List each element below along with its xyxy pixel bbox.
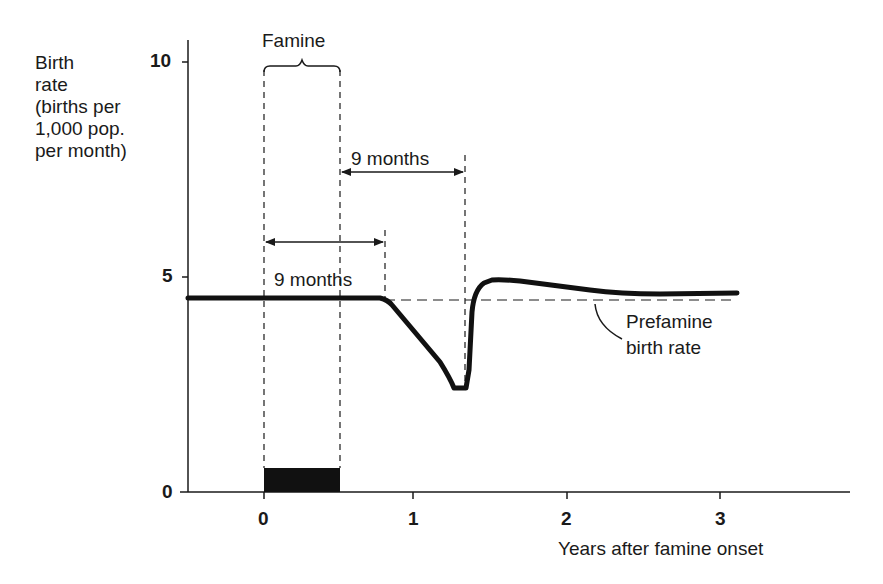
y-axis [180, 40, 188, 492]
birth-rate-line [188, 280, 737, 388]
famine-bar [264, 468, 340, 492]
x-axis [188, 492, 850, 499]
famine-brace [264, 60, 340, 72]
prefamine-callout [595, 304, 622, 339]
guide-lines [264, 70, 465, 468]
chart-canvas [0, 0, 883, 584]
